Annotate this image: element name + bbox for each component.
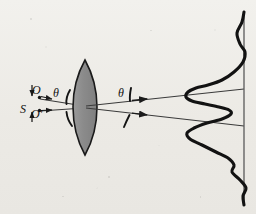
ray-upper-arrowhead <box>132 99 147 101</box>
biconvex-lens <box>73 60 97 155</box>
scan-speck <box>30 18 32 20</box>
direction-arrow-O <box>41 97 52 100</box>
figure-canvas: S O O' θ θ <box>0 0 256 214</box>
angle-arc-lower-in <box>67 112 73 126</box>
label-source-S: S <box>20 103 26 115</box>
ray-lower-arrowhead <box>132 113 147 115</box>
label-angle-theta-object-side: θ <box>53 87 59 99</box>
ray-upper <box>86 89 244 106</box>
angle-tick-group-out <box>124 88 131 127</box>
scan-speck <box>108 176 110 178</box>
label-image-O-prime: O' <box>31 108 42 120</box>
interference-intensity-profile <box>186 12 246 205</box>
angle-arc-upper-in <box>66 90 70 104</box>
angle-tick-lower-out <box>124 115 130 127</box>
scan-speck <box>150 30 152 31</box>
label-image-O: O <box>32 84 41 96</box>
angle-tick-upper-out <box>130 88 131 101</box>
ray-lower <box>86 108 244 126</box>
scan-speck <box>62 196 64 197</box>
scan-speck <box>200 196 201 198</box>
direction-arrow-O-prime <box>41 110 52 111</box>
lens-body <box>73 60 97 155</box>
angle-arc-group-in <box>66 90 72 126</box>
label-angle-theta-image-side: θ <box>118 87 124 99</box>
